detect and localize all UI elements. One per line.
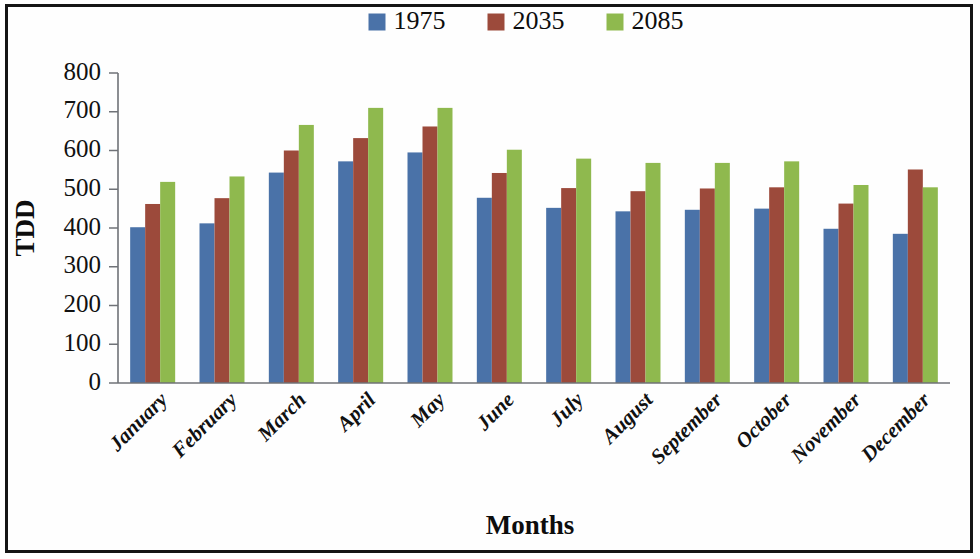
legend-swatch-2085 <box>607 14 624 31</box>
bar-2085-June <box>507 150 522 383</box>
y-tick-label: 600 <box>64 135 102 162</box>
bar-2035-January <box>145 204 160 383</box>
bar-2035-August <box>631 191 646 383</box>
legend-label-2085: 2085 <box>632 6 684 35</box>
bar-1975-November <box>824 229 839 383</box>
y-axis: 0100200300400500600700800 <box>64 58 119 395</box>
x-tick-label: December <box>855 387 935 467</box>
bar-2035-May <box>423 126 438 383</box>
bar-1975-May <box>408 152 423 383</box>
y-tick-label: 800 <box>64 58 102 85</box>
bar-1975-August <box>616 211 631 383</box>
legend-swatch-2035 <box>488 14 505 31</box>
bar-2085-November <box>854 185 869 383</box>
bar-1975-June <box>477 198 492 383</box>
x-tick-label: March <box>252 388 311 447</box>
y-tick-label: 700 <box>64 96 102 123</box>
bar-2035-June <box>492 173 507 383</box>
x-tick-label: August <box>595 387 658 450</box>
bar-2085-January <box>160 182 175 383</box>
bar-1975-March <box>269 173 284 383</box>
x-tick-label: April <box>330 387 380 437</box>
x-tick-label: January <box>103 387 172 456</box>
x-tick-label: June <box>471 388 519 436</box>
bar-1975-February <box>200 223 215 383</box>
bar-2035-September <box>700 188 715 383</box>
bar-2085-April <box>368 108 383 383</box>
bar-1975-July <box>546 208 561 383</box>
bar-1975-December <box>893 234 908 383</box>
bar-2035-November <box>839 204 854 383</box>
x-axis-title: Months <box>486 510 575 540</box>
bar-2085-May <box>438 108 453 383</box>
bar-1975-September <box>685 210 700 383</box>
x-tick-label: July <box>544 387 589 432</box>
bar-2085-July <box>576 159 591 383</box>
legend-label-1975: 1975 <box>394 6 446 35</box>
bar-2085-October <box>784 161 799 383</box>
bar-2035-December <box>908 169 923 383</box>
x-tick-label: October <box>731 387 797 453</box>
y-tick-label: 400 <box>64 213 102 240</box>
bar-2085-August <box>646 163 661 383</box>
bar-1975-October <box>754 209 769 383</box>
y-tick-label: 500 <box>64 174 102 201</box>
bar-2035-April <box>353 138 368 383</box>
y-tick-label: 100 <box>64 329 102 356</box>
x-tick-label: November <box>785 387 866 468</box>
bar-2085-March <box>299 125 314 383</box>
bar-2035-February <box>215 198 230 383</box>
bar-2085-December <box>923 187 938 383</box>
bar-chart: 197520352085 0100200300400500600700800 J… <box>0 0 980 559</box>
x-tick-label: May <box>405 387 450 432</box>
y-tick-label: 200 <box>64 290 102 317</box>
x-axis: JanuaryFebruaryMarchAprilMayJuneJulyAugu… <box>103 383 950 469</box>
legend-label-2035: 2035 <box>513 6 565 35</box>
chart-figure: 197520352085 0100200300400500600700800 J… <box>0 0 980 559</box>
y-tick-label: 300 <box>64 251 102 278</box>
plot-area <box>130 108 938 383</box>
bar-2035-October <box>769 187 784 383</box>
legend-swatch-1975 <box>369 14 386 31</box>
bar-2085-September <box>715 163 730 383</box>
chart-legend: 197520352085 <box>369 6 684 35</box>
bar-2085-February <box>230 176 245 383</box>
y-tick-label: 0 <box>89 368 102 395</box>
x-tick-label: February <box>166 387 242 463</box>
bar-1975-January <box>130 227 145 383</box>
x-tick-label: September <box>646 387 728 469</box>
bar-2035-March <box>284 151 299 384</box>
bar-1975-April <box>338 161 353 383</box>
y-axis-title: TDD <box>10 199 40 256</box>
bar-2035-July <box>561 188 576 383</box>
